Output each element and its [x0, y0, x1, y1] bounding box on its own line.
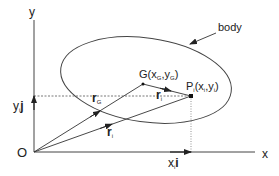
rG-vector [34, 84, 143, 152]
ri-vector [34, 96, 191, 152]
ri-label: ri [107, 125, 113, 139]
point-G [142, 83, 145, 86]
x-axis-label: x [262, 147, 268, 161]
body-pointer-arrow [190, 33, 216, 44]
ri-prime-label: ri' [156, 87, 164, 102]
body-kinematics-diagram: y x O body G(xG,yG) Pi(xi,yi) rG ri ri' … [0, 0, 279, 176]
origin-label: O [17, 145, 27, 160]
rG-label: rG [92, 91, 102, 105]
point-G-label: G(xG,yG) [139, 68, 178, 81]
point-P-label: Pi(xi,yi) [186, 80, 219, 93]
rG-arrowhead [90, 111, 100, 117]
y-axis-label: y [29, 5, 35, 19]
yj-label: yij [13, 99, 24, 113]
point-P [189, 94, 193, 98]
xi-label: xii [168, 156, 179, 170]
body-label: body [218, 21, 242, 33]
